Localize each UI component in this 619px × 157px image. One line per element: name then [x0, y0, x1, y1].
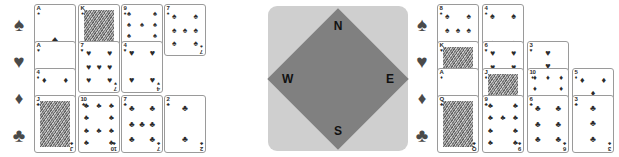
club-icon: ♣: [407, 117, 437, 154]
card-pip-field: ♣♣♣♣♣♣♣♣♣♣: [79, 96, 119, 152]
card-pip: ♠: [172, 26, 177, 35]
card-pip: ♦: [533, 85, 537, 93]
card-pip: ♥: [545, 49, 550, 58]
club-icon: ♣: [4, 117, 34, 154]
playing-card[interactable]: 7♥7♥♥♥♥♥♥♥♥: [78, 41, 120, 93]
card-pip: ♥: [511, 49, 516, 58]
court-card-artwork: [40, 101, 70, 147]
card-pip: ♠: [490, 12, 495, 21]
playing-card[interactable]: 6♣6♣♣♣♣♣♣♣: [527, 95, 569, 153]
card-corner-index: J♣: [70, 142, 73, 151]
card-pip: ♥: [86, 49, 91, 58]
spade-icon: ♠: [4, 6, 34, 43]
card-pip: ♥: [107, 63, 112, 72]
card-pip: ♦: [580, 76, 585, 85]
card-pip: ♠: [153, 21, 157, 29]
west-suit-legend: ♠ ♥ ♦ ♣: [4, 0, 34, 157]
card-pip: ♣: [513, 127, 518, 135]
card-pip: ♣: [84, 127, 89, 135]
card-pip: ♠: [183, 26, 188, 35]
card-pip: ♣: [590, 104, 596, 113]
playing-card[interactable]: 7♠7♠♠♠♠♠♠♠♠: [164, 4, 206, 56]
card-pip-field: ♣♣♣♣♣♣♣: [122, 96, 162, 152]
playing-card[interactable]: J♣J♣: [34, 95, 76, 153]
card-pip: ♣: [488, 139, 493, 147]
heart-icon: ♥: [407, 43, 437, 80]
card-pip: ♠: [445, 12, 450, 21]
bridge-board: ♠ ♥ ♦ ♣ A♠A♠♠K♠K♠9♠9♠♠♠♠♠♠♠♠♠♠7♠7♠♠♠♠♠♠♠…: [0, 0, 619, 157]
card-pip: ♠: [172, 39, 177, 48]
card-pip: ♣: [129, 104, 135, 113]
card-pip: ♣: [555, 120, 561, 129]
diamond-icon: ♦: [407, 80, 437, 117]
card-pip: ♣: [535, 120, 541, 129]
card-pip: ♣: [149, 120, 155, 129]
card-pip-field: ♣♣♣♣♣♣♣♣♣: [483, 96, 523, 152]
card-pip: ♥: [96, 63, 101, 72]
compass-rose: N W E S: [268, 6, 408, 151]
compass-label-south: S: [334, 125, 342, 137]
card-pip-field: ♥♥♥♥♥♥♥: [79, 42, 119, 92]
card-pip: ♣: [488, 114, 493, 122]
compass-label-east: E: [386, 73, 394, 85]
playing-card[interactable]: 3♣3♣♣♣♣: [572, 95, 614, 153]
east-cards-grid: 8♠8♠♠♠♠♠♠♠♠♠4♠4♠♠♠♠♠K♥K♥6♥6♥♥♥♥♥♥♥3♥3♥♥♥…: [437, 0, 619, 157]
card-pip: ♣: [84, 114, 89, 122]
diamond-icon: ♦: [4, 80, 34, 117]
card-pip: ♣: [513, 114, 518, 122]
card-pip: ♦: [601, 76, 606, 85]
card-pip: ♥: [86, 76, 91, 85]
playing-card[interactable]: 10♣10♣♣♣♣♣♣♣♣♣♣♣: [78, 95, 120, 153]
card-pip: ♣: [109, 127, 114, 135]
card-pip: ♠: [456, 26, 461, 35]
compass-label-west: W: [282, 73, 293, 85]
card-pip: ♣: [84, 139, 89, 147]
card-suit-glyph: ♦: [485, 75, 488, 80]
card-pip: ♣: [97, 127, 102, 135]
card-pip: ♦: [533, 74, 537, 82]
card-pip: ♣: [555, 104, 561, 113]
card-pip: ♥: [129, 49, 134, 58]
card-pip: ♠: [445, 26, 450, 35]
card-pip: ♠: [127, 10, 131, 18]
card-pip: ♦: [546, 74, 550, 82]
card-pip: ♠: [153, 10, 157, 18]
playing-card[interactable]: 4♥4♥♥♥♥♥: [121, 41, 163, 93]
heart-icon: ♥: [4, 43, 34, 80]
card-pip: ♥: [150, 49, 155, 58]
playing-card[interactable]: 7♣7♣♣♣♣♣♣♣♣: [121, 95, 163, 153]
card-pip: ♣: [97, 102, 102, 110]
card-pip: ♣: [109, 114, 114, 122]
card-pip: ♣: [513, 139, 518, 147]
card-pip: ♣: [501, 114, 506, 122]
card-pip: ♣: [129, 120, 135, 129]
card-pip: ♣: [109, 102, 114, 110]
card-pip: ♥: [129, 76, 134, 85]
card-pip: ♣: [488, 127, 493, 135]
east-suit-legend: ♠ ♥ ♦ ♣: [407, 0, 437, 157]
card-pip: ♣: [590, 135, 596, 144]
card-pip: ♣: [149, 135, 155, 144]
card-pip-field: ♣♣♣: [573, 96, 613, 152]
card-pip: ♥: [107, 49, 112, 58]
card-pip: ♣: [555, 135, 561, 144]
court-card-artwork: [443, 101, 473, 147]
card-pip: ♠: [127, 32, 131, 40]
playing-card[interactable]: 9♣9♣♣♣♣♣♣♣♣♣♣: [482, 95, 524, 153]
card-pip: ♠: [511, 12, 516, 21]
playing-card[interactable]: Q♣Q♣: [437, 95, 479, 153]
card-pip: ♣: [488, 102, 493, 110]
card-pip: ♣: [535, 135, 541, 144]
card-pip: ♣: [139, 120, 145, 129]
card-pip: ♠: [172, 12, 177, 21]
card-pip: ♠: [466, 26, 471, 35]
east-hand: ♠ ♥ ♦ ♣ 8♠8♠♠♠♠♠♠♠♠♠4♠4♠♠♠♠♠K♥K♥6♥6♥♥♥♥♥…: [407, 0, 619, 157]
card-suit-glyph: ♣: [70, 142, 73, 147]
card-pip: ♥: [107, 76, 112, 85]
card-pip: ♠: [127, 21, 131, 29]
card-pip: ♠: [153, 32, 157, 40]
card-pip: ♣: [84, 102, 89, 110]
playing-card[interactable]: 2♣2♣♣♣: [164, 95, 206, 153]
card-pip: ♣: [182, 104, 188, 113]
card-pip: ♣: [182, 135, 188, 144]
